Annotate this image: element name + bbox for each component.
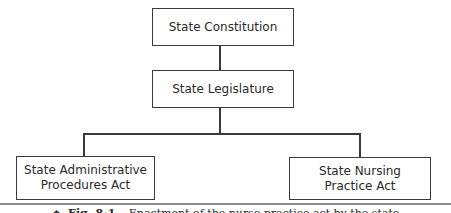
node-state-constitution: State Constitution: [152, 8, 294, 46]
connector-to-apa: [83, 133, 85, 156]
node-state-legislature: State Legislature: [152, 70, 294, 108]
node-label-line-2: Procedures Act: [41, 178, 131, 193]
node-state-administrative-procedures-act: State Administrative Procedures Act: [16, 156, 155, 200]
node-state-nursing-practice-act: State Nursing Practice Act: [289, 157, 431, 200]
decorative-diamond-icon: ❖: [52, 208, 61, 213]
node-label-line-1: State Nursing: [319, 164, 401, 179]
node-label: State Constitution: [169, 20, 278, 35]
connector-legislature-down: [219, 108, 221, 134]
node-label: State Legislature: [172, 82, 274, 97]
connector-branch-horizontal: [83, 133, 360, 135]
node-label-line-2: Practice Act: [324, 179, 395, 194]
connector-to-npa: [359, 133, 361, 157]
figure-caption: ❖ Fig. 8-1 Enactment of the nurse practi…: [0, 207, 451, 213]
caption-divider: [0, 203, 451, 205]
figure-number: Fig. 8-1: [68, 207, 115, 213]
node-label-line-1: State Administrative: [24, 163, 147, 178]
caption-text: Enactment of the nurse practice act by t…: [129, 207, 400, 213]
connector-constitution-legislature: [219, 46, 221, 70]
